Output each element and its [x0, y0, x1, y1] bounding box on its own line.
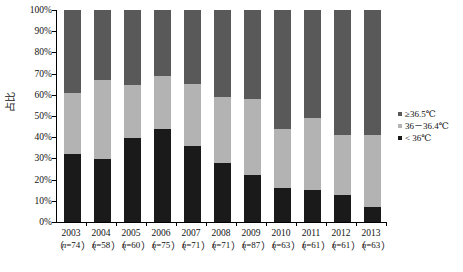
bar-segment — [244, 99, 261, 175]
x-axis-tick-mark — [296, 222, 297, 226]
legend-item: 36－36.4℃ — [398, 120, 463, 132]
y-axis-tick-mark — [52, 116, 56, 117]
bar-column — [184, 10, 201, 222]
x-axis-tick-mark — [176, 222, 177, 226]
legend-swatch-icon — [398, 136, 402, 140]
paren-separator: ）（ — [351, 240, 366, 253]
paren-separator: ）（ — [291, 240, 306, 253]
stacked-bar — [94, 10, 111, 222]
x-axis-label: 2003n=74 — [62, 227, 81, 252]
stacked-bar — [274, 10, 291, 222]
bar-segment — [274, 10, 291, 129]
stacked-bar — [214, 10, 231, 222]
x-axis-year: 2009 — [242, 227, 261, 239]
bar-segment — [94, 10, 111, 80]
x-axis-year: 2006 — [152, 227, 171, 239]
paren-separator: ）（ — [321, 240, 336, 253]
bar-column — [64, 10, 81, 222]
paren-separator: ）（ — [111, 240, 126, 253]
bar-segment — [154, 76, 171, 129]
stacked-bar — [184, 10, 201, 222]
legend-item: < 36℃ — [398, 132, 463, 144]
y-axis-tick-label: 70% — [12, 69, 52, 79]
stacked-bar — [304, 10, 321, 222]
stacked-bar — [364, 10, 381, 222]
x-axis-label-group: 2003n=742004n=582005n=602006n=752007n=71… — [56, 227, 387, 267]
y-axis-tick-label: 0% — [12, 217, 52, 227]
y-axis-tick-mark — [52, 31, 56, 32]
y-axis-tick-label: 60% — [12, 90, 52, 100]
legend-label: < 36℃ — [405, 133, 431, 143]
bar-column — [364, 10, 381, 222]
x-axis-year: 2005 — [122, 227, 141, 239]
paren-separator: ）（ — [261, 240, 276, 253]
bar-segment — [64, 10, 81, 93]
bar-segment — [94, 80, 111, 160]
x-axis-year: 2013 — [362, 227, 381, 239]
bar-segment — [274, 129, 291, 188]
x-axis-tick-mark — [266, 222, 267, 226]
x-axis-line — [56, 222, 387, 223]
x-axis-year: 2012 — [332, 227, 351, 239]
bar-segment — [364, 207, 381, 222]
x-axis-year: 2011 — [302, 227, 321, 239]
chart-legend: ≥36.5℃36－36.4℃< 36℃ — [398, 108, 463, 144]
bar-column — [124, 10, 141, 222]
bar-segment — [184, 10, 201, 84]
y-axis-tick-label: 90% — [12, 26, 52, 36]
legend-label: 36－36.4℃ — [405, 121, 449, 131]
x-axis-tick-mark — [236, 222, 237, 226]
y-axis-tick-label: 50% — [12, 111, 52, 121]
bar-segment — [274, 188, 291, 222]
bar-segment — [214, 163, 231, 222]
x-axis-year: 2007 — [182, 227, 201, 239]
legend-label: ≥36.5℃ — [405, 109, 436, 119]
bar-segment — [64, 154, 81, 222]
y-axis-title: 占比 — [5, 74, 16, 130]
bar-segment — [334, 10, 351, 135]
bar-segment — [214, 97, 231, 163]
legend-item: ≥36.5℃ — [398, 108, 463, 120]
bar-segment — [184, 84, 201, 145]
x-axis-year: 2010 — [272, 227, 291, 239]
y-axis-tick-mark — [52, 137, 56, 138]
bar-segment — [304, 10, 321, 118]
y-axis-tick-label: 100% — [12, 5, 52, 15]
bar-segment — [364, 10, 381, 135]
y-axis-tick-label: 20% — [12, 175, 52, 185]
paren-separator: ）（ — [201, 240, 216, 253]
bar-segment — [154, 10, 171, 76]
y-axis-tick-label: 80% — [12, 47, 52, 57]
x-axis-tick-mark — [86, 222, 87, 226]
paren-separator: ）（ — [231, 240, 246, 253]
x-axis-year: 2004 — [92, 227, 111, 239]
x-axis-tick-mark — [356, 222, 357, 226]
bar-column — [304, 10, 321, 222]
bar-column — [274, 10, 291, 222]
bar-column — [244, 10, 261, 222]
legend-swatch-icon — [398, 112, 402, 116]
bar-segment — [304, 118, 321, 190]
y-axis-tick-mark — [52, 158, 56, 159]
y-axis-tick-label: 30% — [12, 153, 52, 163]
sample-size-label: n=74 — [62, 239, 81, 252]
x-axis-tick-mark — [146, 222, 147, 226]
bar-segment — [244, 175, 261, 222]
bar-segment — [334, 135, 351, 195]
x-axis-tick-mark — [386, 222, 387, 226]
y-axis-tick-mark — [52, 52, 56, 53]
bar-segment — [364, 135, 381, 207]
x-axis-year: 2008 — [212, 227, 231, 239]
y-axis-tick-label: 10% — [12, 196, 52, 206]
bar-segment — [184, 146, 201, 222]
y-axis-tick-mark — [52, 201, 56, 202]
bar-segment — [334, 195, 351, 222]
bar-segment — [244, 10, 261, 99]
bar-column — [214, 10, 231, 222]
bar-segment — [154, 129, 171, 222]
bar-segment — [124, 85, 141, 138]
stacked-bar — [154, 10, 171, 222]
paren-separator: ）（ — [171, 240, 186, 253]
stacked-bar — [64, 10, 81, 222]
stacked-bar — [244, 10, 261, 222]
